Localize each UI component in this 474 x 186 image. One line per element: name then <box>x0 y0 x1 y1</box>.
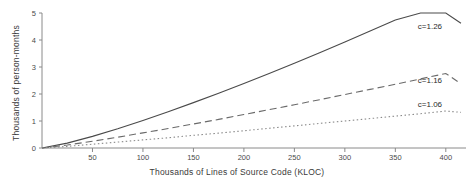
data-series-group <box>42 13 461 148</box>
series-label: c=1.06 <box>418 100 442 109</box>
x-tick-label: 200 <box>238 153 251 162</box>
y-tick-label: 3 <box>32 63 36 72</box>
y-tick-label: 5 <box>32 9 36 18</box>
y-tick-marks: 012345 <box>32 9 42 153</box>
series-line-dashed <box>42 73 461 148</box>
series-line-solid <box>42 13 461 148</box>
y-tick-label: 0 <box>32 144 36 153</box>
series-line-dotted <box>42 111 461 148</box>
x-tick-label: 150 <box>187 153 200 162</box>
series-label: c=1.16 <box>418 76 442 85</box>
series-label: c=1.26 <box>418 22 442 31</box>
y-tick-label: 2 <box>32 90 36 99</box>
x-tick-label: 350 <box>389 153 402 162</box>
x-tick-label: 400 <box>440 153 453 162</box>
x-tick-label: 250 <box>288 153 301 162</box>
x-tick-marks: 50100150200250300350400 <box>88 148 452 162</box>
x-axis-title: Thousands of Lines of Source Code (KLOC) <box>0 167 474 177</box>
y-axis-title: Thousands of person-months <box>11 13 21 153</box>
y-tick-label: 1 <box>32 117 36 126</box>
x-tick-label: 300 <box>339 153 352 162</box>
x-tick-label: 50 <box>88 153 96 162</box>
y-tick-label: 4 <box>32 36 36 45</box>
x-tick-label: 100 <box>137 153 150 162</box>
y-axis: 012345 <box>32 9 42 153</box>
x-axis: 50100150200250300350400 <box>42 148 466 162</box>
plot-area: 012345 50100150200250300350400 <box>0 0 474 186</box>
chart-container: 012345 50100150200250300350400 Thousands… <box>0 0 474 186</box>
